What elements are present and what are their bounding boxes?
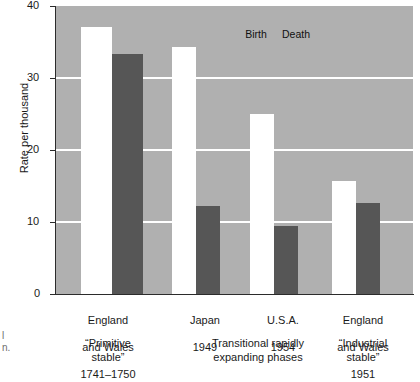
category-line-1: England bbox=[308, 314, 418, 328]
bar-birth-england-1741 bbox=[81, 27, 112, 294]
plot-area bbox=[56, 6, 413, 294]
bar-birth-england-1951 bbox=[332, 181, 356, 294]
bar-death-england-1741 bbox=[112, 54, 143, 294]
phase-label-primitive-stable: “Primitive stable” bbox=[46, 337, 170, 364]
bar-death-japan-1949 bbox=[196, 206, 220, 294]
x-axis-line bbox=[55, 294, 414, 295]
bar-death-usa-1954 bbox=[274, 226, 298, 294]
y-tick-label-40: 40 bbox=[27, 0, 39, 11]
category-line-3: 1951 bbox=[308, 368, 418, 382]
bar-death-england-1951 bbox=[356, 203, 380, 294]
y-tick-label-0: 0 bbox=[34, 288, 40, 299]
category-line-3: 1741–1750 bbox=[46, 368, 170, 382]
clipped-caption-fragment: l n. bbox=[2, 330, 10, 354]
y-tick-label-10: 10 bbox=[27, 216, 39, 227]
bar-birth-japan-1949 bbox=[172, 47, 196, 294]
phase-label-industrial-stable: “Industrial stable” bbox=[308, 337, 418, 364]
legend-label-death: Death bbox=[272, 29, 320, 40]
bar-birth-usa-1954 bbox=[250, 114, 274, 294]
y-axis-label: Rate per thousand bbox=[18, 58, 30, 198]
